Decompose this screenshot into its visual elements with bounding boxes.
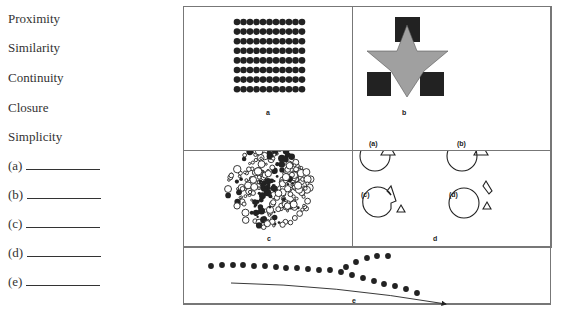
sub-label-d: (d): [449, 191, 458, 198]
blank-label: (d): [8, 245, 23, 260]
blank-label: (c): [8, 216, 22, 231]
figure-caption: e: [352, 297, 356, 304]
circle-triangle-figure: [353, 151, 553, 249]
blank-label: (b): [8, 187, 23, 202]
answer-line[interactable]: [26, 217, 100, 228]
blank-label: (a): [8, 158, 22, 173]
figure-caption: d: [433, 235, 437, 242]
term-proximity: Proximity: [8, 11, 60, 27]
figure-d-closure: (a) (b) (c) (d) d: [352, 150, 552, 248]
sub-label-c: (c): [361, 191, 370, 198]
dot-grid-figure: [184, 7, 354, 152]
diverging-dots-figure: [184, 247, 552, 306]
term-simplicity: Simplicity: [8, 129, 62, 145]
sub-label-b: (b): [457, 140, 466, 147]
figure-b-similarity: b: [352, 6, 552, 151]
star-squares-figure: [353, 7, 553, 152]
figure-caption: b: [402, 109, 406, 116]
answer-line[interactable]: [26, 159, 100, 170]
blank-d[interactable]: (d): [8, 245, 101, 261]
blank-b[interactable]: (b): [8, 187, 101, 203]
answer-line[interactable]: [26, 275, 100, 286]
blank-a[interactable]: (a): [8, 158, 100, 174]
answer-line[interactable]: [27, 188, 101, 199]
blank-e[interactable]: (e): [8, 274, 100, 290]
figure-caption: a: [266, 109, 270, 116]
term-continuity: Continuity: [8, 70, 64, 86]
figure-a-proximity: a: [183, 6, 353, 151]
answer-line[interactable]: [27, 246, 101, 257]
blank-c[interactable]: (c): [8, 216, 100, 232]
term-similarity: Similarity: [8, 40, 60, 56]
figure-e-simplicity: e: [183, 246, 551, 305]
blank-label: (e): [8, 274, 22, 289]
figure-c-continuity: c: [183, 150, 353, 248]
sub-label-a: (a): [369, 140, 378, 147]
figure-grid: a b c (a): [183, 6, 551, 304]
term-closure: Closure: [8, 100, 48, 116]
figure-caption: c: [267, 235, 271, 242]
